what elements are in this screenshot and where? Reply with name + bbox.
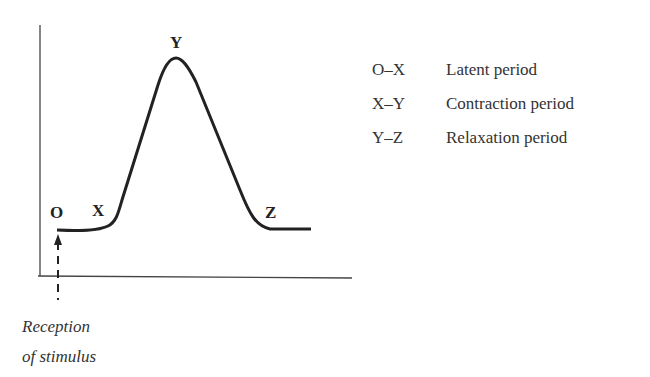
legend-key: X–Y xyxy=(372,94,446,114)
point-z-label: Z xyxy=(265,203,276,222)
x-axis xyxy=(38,276,352,278)
point-y-label: Y xyxy=(170,33,182,52)
legend-label: Latent period xyxy=(446,60,537,80)
legend-key: Y–Z xyxy=(372,128,446,148)
stimulus-caption: Reception of stimulus xyxy=(22,312,96,372)
legend-label: Contraction period xyxy=(446,94,574,114)
point-x-label: X xyxy=(92,201,105,220)
legend: O–X Latent period X–Y Contraction period… xyxy=(372,60,574,162)
legend-label: Relaxation period xyxy=(446,128,567,148)
twitch-diagram: O X Y Z xyxy=(0,0,650,377)
legend-item: Y–Z Relaxation period xyxy=(372,128,574,162)
caption-line: Reception xyxy=(22,312,96,342)
point-o-label: O xyxy=(50,203,63,222)
legend-item: O–X Latent period xyxy=(372,60,574,94)
stimulus-arrow-icon xyxy=(54,234,62,245)
caption-line: of stimulus xyxy=(22,342,96,372)
legend-key: O–X xyxy=(372,60,446,80)
legend-item: X–Y Contraction period xyxy=(372,94,574,128)
